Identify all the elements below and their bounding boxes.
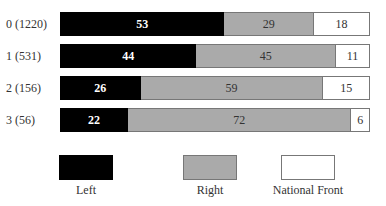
row-label: 3 (56) — [6, 108, 35, 132]
legend-label: National Front — [268, 183, 348, 198]
segment-left: 22 — [60, 108, 128, 132]
segment-right: 72 — [128, 108, 351, 132]
legend-label: Right — [170, 183, 250, 198]
segment-right: 29 — [224, 12, 314, 36]
legend-label: Left — [46, 183, 126, 198]
segment-left: 26 — [60, 76, 141, 100]
segment-national-front: 18 — [314, 12, 370, 36]
stacked-bar: 53 29 18 — [60, 12, 370, 36]
legend-swatch-left — [59, 155, 113, 180]
bar-row-1: 1 (531) 44 45 11 — [0, 44, 386, 68]
legend-swatch-right — [183, 155, 237, 180]
segment-right: 59 — [141, 76, 324, 100]
legend-swatch-national-front — [281, 155, 335, 180]
bar-row-2: 2 (156) 26 59 15 — [0, 76, 386, 100]
legend-item-left: Left — [46, 155, 126, 198]
segment-national-front: 11 — [336, 44, 370, 68]
row-label: 1 (531) — [6, 44, 41, 68]
bar-row-3: 3 (56) 22 72 6 — [0, 108, 386, 132]
bar-row-0: 0 (1220) 53 29 18 — [0, 12, 386, 36]
row-label: 0 (1220) — [6, 12, 47, 36]
stacked-bar: 26 59 15 — [60, 76, 370, 100]
segment-national-front: 15 — [323, 76, 370, 100]
segment-national-front: 6 — [351, 108, 370, 132]
legend-item-right: Right — [170, 155, 250, 198]
segment-left: 53 — [60, 12, 224, 36]
legend-item-national-front: National Front — [268, 155, 348, 198]
segment-right: 45 — [196, 44, 336, 68]
stacked-bar: 22 72 6 — [60, 108, 370, 132]
row-label: 2 (156) — [6, 76, 41, 100]
stacked-bar: 44 45 11 — [60, 44, 370, 68]
segment-left: 44 — [60, 44, 196, 68]
